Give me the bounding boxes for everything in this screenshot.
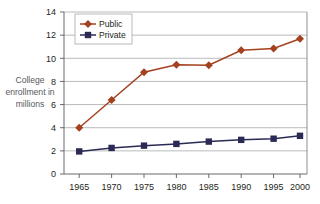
x-tick-label: 1970 [102,182,122,192]
y-tick-label: 14 [46,7,56,17]
data-point-marker [270,136,276,142]
y-tick-label: 6 [51,100,56,110]
line-chart: 14 12 10 8 6 4 2 0 1965 1970 1975 1980 1… [0,0,320,204]
x-tick-label: 1975 [134,182,154,192]
x-tick-label: 1990 [231,182,251,192]
x-tick-label: 1980 [166,182,186,192]
x-tick-label: 1985 [199,182,219,192]
chart-legend: Public Private [75,14,132,44]
data-point-marker [173,141,179,147]
y-tick-label: 10 [46,54,56,64]
y-tick-label: 0 [51,169,56,179]
y-axis-title-line: College [15,75,44,85]
x-tick-label: 1995 [264,182,284,192]
x-tick-label: 2000 [290,182,310,192]
data-point-marker [141,142,147,148]
chart-canvas: 14 12 10 8 6 4 2 0 1965 1970 1975 1980 1… [0,0,320,204]
y-tick-label: 8 [51,77,56,87]
data-point-marker [206,138,212,144]
legend-label: Private [99,30,126,40]
y-tick-label: 4 [51,123,56,133]
x-tick-label: 1965 [69,182,89,192]
data-point-marker [297,133,303,139]
data-point-marker [238,137,244,143]
y-axis-title-line: millions [16,99,45,109]
y-tick-label: 12 [46,30,56,40]
data-point-marker [108,145,114,151]
legend-label: Public [99,19,123,29]
data-point-marker [76,148,82,154]
y-axis-title-line: enrollment in [5,87,54,97]
square-marker-icon [85,32,91,38]
y-tick-label: 2 [51,146,56,156]
